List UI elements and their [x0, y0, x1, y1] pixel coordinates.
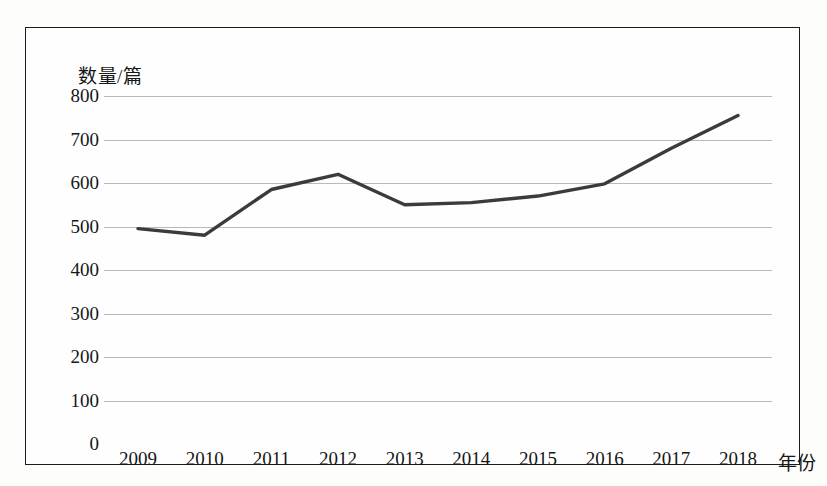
x-tick-label-2013: 2013 [386, 448, 424, 470]
y-tick-label: 500 [51, 216, 99, 238]
data-series-line [138, 116, 738, 236]
line-chart-svg [104, 96, 772, 444]
figure-root: 数量/篇 8007006005004003002001000 200920102… [0, 0, 827, 486]
y-tick-label: 200 [51, 346, 99, 368]
x-axis-tick-labels: 2009201020112012201320142015201620172018 [104, 448, 772, 478]
x-tick-label-2011: 2011 [253, 448, 290, 470]
y-tick-label: 100 [51, 390, 99, 412]
x-tick-label-2014: 2014 [452, 448, 490, 470]
x-tick-label-2015: 2015 [519, 448, 557, 470]
x-tick-label-2017: 2017 [652, 448, 690, 470]
x-tick-label-2010: 2010 [186, 448, 224, 470]
x-tick-label-2012: 2012 [319, 448, 357, 470]
y-tick-label: 800 [51, 85, 99, 107]
x-tick-label-2016: 2016 [586, 448, 624, 470]
y-tick-label: 0 [51, 433, 99, 455]
chart-frame: 数量/篇 8007006005004003002001000 200920102… [25, 27, 800, 465]
x-tick-label-2018: 2018 [719, 448, 757, 470]
y-tick-label: 700 [51, 129, 99, 151]
x-axis-title: 年份 [778, 448, 816, 475]
y-axis-tick-labels: 8007006005004003002001000 [51, 96, 99, 444]
y-tick-label: 300 [51, 303, 99, 325]
x-tick-label-2009: 2009 [119, 448, 157, 470]
y-axis-title: 数量/篇 [78, 61, 142, 88]
y-tick-label: 600 [51, 172, 99, 194]
plot-area [104, 96, 772, 444]
y-tick-label: 400 [51, 259, 99, 281]
